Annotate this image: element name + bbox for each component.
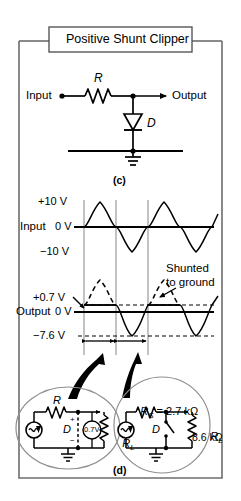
axis-label-minus76: −7.6 V — [33, 330, 65, 341]
axis-label-minus10: −10 V — [40, 246, 69, 257]
inset-left-resistor-label: R — [53, 395, 61, 406]
input-label: Input — [26, 90, 52, 102]
inset-right-ground-icon — [149, 448, 163, 461]
inset-left-ground-icon — [61, 448, 75, 461]
waveform-gridlines — [84, 200, 148, 355]
inset-left-load-label-sub: L — [130, 443, 134, 452]
inset-left-minus-sign: − — [70, 437, 75, 445]
annotation-shunted-line2: to ground — [166, 277, 215, 289]
axis-label-plus10: +10 V — [38, 196, 67, 207]
inset-left-diode-label: D — [63, 424, 71, 435]
inset-left-resistor-icon — [46, 407, 66, 418]
inset-right-series-label: RS = 2.7 kΩ — [128, 393, 198, 432]
waveform-output-label: Output — [16, 306, 51, 318]
inset-left-load-label-main: R — [122, 437, 130, 449]
plus07-pointer-arrow — [73, 297, 84, 308]
inset-right-series-label-main: R — [140, 405, 148, 417]
panel-d-label: (d) — [113, 465, 126, 476]
callout-arrow-right — [122, 352, 142, 398]
callout-arrow-left — [68, 353, 105, 399]
annotation-shunted-line1: Shunted — [166, 263, 209, 275]
schematic-circuit — [59, 89, 183, 165]
shunted-dashed-hump-1 — [84, 280, 116, 305]
page-title: Positive Shunt Clipper — [66, 33, 189, 46]
callout-arrows — [68, 352, 142, 399]
figure-container: Positive Shunt Clipper Input Output R D … — [0, 0, 241, 501]
output-label: Output — [172, 90, 207, 102]
ac-source-icon — [26, 422, 42, 438]
panel-c-label: (c) — [113, 175, 126, 186]
ground-icon — [125, 151, 141, 165]
axis-label-plus07: +0.7 V — [33, 292, 65, 303]
inset-left-source-label: 0.7V — [84, 426, 99, 434]
resistor-label: R — [94, 72, 103, 84]
shunted-leader-arrow — [160, 288, 176, 297]
inset-right-load-value: 8.6 kΩ — [192, 432, 223, 443]
resistor-icon — [85, 89, 111, 103]
inset-right-diode-label: D — [152, 424, 160, 435]
axis-label-zero-input: 0 V — [55, 221, 72, 232]
axis-label-zero-output: 0 V — [55, 306, 72, 317]
diode-icon — [124, 114, 142, 130]
inset-left-plus-sign: + — [70, 416, 75, 424]
diode-label: D — [147, 117, 156, 129]
inset-right-series-value: = 2.7 kΩ — [154, 405, 199, 417]
waveform-input-label: Input — [20, 221, 46, 233]
